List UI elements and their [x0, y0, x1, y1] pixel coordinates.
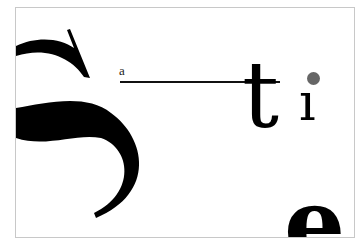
- letter-i: ı: [299, 76, 316, 128]
- letter-t: t: [242, 50, 279, 142]
- small-a-letter: a: [119, 64, 125, 77]
- typography-poster: a t ı e: [15, 7, 355, 238]
- letter-e: e: [284, 176, 345, 238]
